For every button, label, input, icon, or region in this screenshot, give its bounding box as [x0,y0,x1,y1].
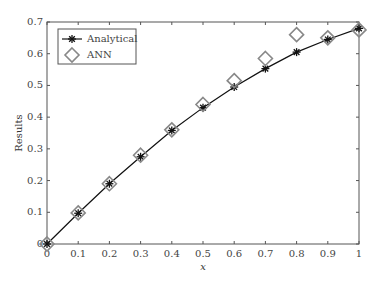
x-tick-label: 0.2 [101,248,117,259]
y-tick-label: 0.6 [27,48,43,59]
x-tick-label: 0.7 [257,248,273,259]
x-tick-label: 1 [356,248,362,259]
chart: 00.10.20.30.40.50.60.70.80.9100.10.20.30… [0,0,377,282]
x-tick-label: 0.5 [195,248,211,259]
x-tick-label: 0.4 [164,248,180,259]
x-tick-label: 0.8 [289,248,305,259]
y-tick-label: 0.7 [27,16,43,27]
x-tick-label: 0.9 [320,248,336,259]
legend-label-ann: ANN [86,49,112,60]
y-axis-label: Results [13,114,24,151]
x-tick-label: 0.3 [133,248,149,259]
y-tick-label: 0.4 [27,111,43,122]
y-tick-label: 0.2 [27,175,43,186]
x-axis-label: x [200,261,206,272]
y-tick-label: 0.3 [27,143,43,154]
legend: AnalyticalANN [58,29,137,64]
y-tick-label: 0.1 [27,206,43,217]
x-tick-label: 0.1 [70,248,86,259]
x-tick-label: 0.6 [226,248,242,259]
legend-label-analytical: Analytical [86,33,137,44]
y-tick-label: 0.5 [27,79,43,90]
